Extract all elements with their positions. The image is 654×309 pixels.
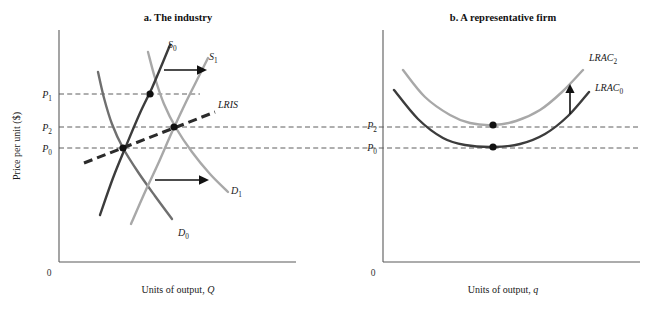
- firm-tick-p0-letter: P: [366, 142, 373, 153]
- industry-tick-p2-letter: P: [41, 122, 48, 133]
- firm-tick-p2: P2: [366, 120, 377, 134]
- panel-industry-y-axis-label: Price per unit ($): [11, 112, 23, 180]
- panel-firm: b. A representative firm 0 Units of outp…: [366, 12, 640, 295]
- curve-label-lrac0-sub: 0: [619, 87, 623, 96]
- curve-supply-0: [100, 45, 170, 215]
- firm-tick-p0: P0: [366, 142, 377, 156]
- curve-label-s0-sub: 0: [173, 44, 177, 53]
- industry-tick-p2-sub: 2: [48, 127, 52, 136]
- industry-tick-p0-letter: P: [41, 143, 48, 154]
- equilibrium-dot-e2: [170, 123, 177, 130]
- industry-origin-label: 0: [47, 268, 52, 278]
- curve-label-s0: S0: [168, 39, 177, 53]
- industry-x-axis-label-symbol: Q: [207, 284, 215, 295]
- firm-x-axis-label-text: Units of output,: [468, 284, 534, 295]
- figure-svg: a. The industry Price per unit ($) 0 Uni…: [0, 0, 654, 309]
- firm-tick-p2-sub: 2: [373, 125, 377, 134]
- panel-industry: a. The industry Price per unit ($) 0 Uni…: [11, 12, 640, 295]
- panel-industry-title: a. The industry: [144, 12, 213, 23]
- curve-label-s1: S1: [209, 51, 218, 65]
- panel-firm-title: b. A representative firm: [450, 12, 557, 23]
- curve-label-lrac2-sub: 2: [613, 57, 617, 66]
- curve-label-d1: D1: [230, 185, 242, 199]
- firm-origin-label: 0: [371, 268, 376, 278]
- curve-label-d0: D0: [177, 227, 189, 241]
- curve-lrac-0: [394, 90, 589, 147]
- curve-label-lrac0: LRAC0: [594, 82, 623, 96]
- industry-tick-p0-sub: 0: [48, 148, 52, 157]
- firm-tick-p2-letter: P: [366, 120, 373, 131]
- industry-tick-p1-sub: 1: [48, 94, 52, 103]
- industry-tick-p1: P1: [41, 89, 52, 103]
- industry-tick-p2: P2: [41, 122, 52, 136]
- curve-label-lris: LRIS: [217, 99, 238, 110]
- firm-x-axis-label-symbol: q: [533, 284, 538, 295]
- figure-container: a. The industry Price per unit ($) 0 Uni…: [0, 0, 654, 309]
- curve-lrac-2: [403, 70, 583, 125]
- curve-label-lrac2-letter: LRAC: [588, 52, 614, 63]
- industry-x-axis-label: Units of output, Q: [142, 284, 216, 295]
- curve-label-lrac2: LRAC2: [588, 52, 617, 66]
- curve-label-d0-sub: 0: [185, 232, 189, 241]
- curve-label-lrac0-letter: LRAC: [594, 82, 620, 93]
- firm-tick-p0-sub: 0: [373, 147, 377, 156]
- equilibrium-dot-e0: [119, 144, 126, 151]
- industry-tick-p0: P0: [41, 143, 52, 157]
- firm-min-dot-p2: [489, 121, 496, 128]
- firm-x-axis-label: Units of output, q: [468, 284, 539, 295]
- industry-tick-p1-letter: P: [41, 89, 48, 100]
- equilibrium-dot-e1: [146, 90, 153, 97]
- curve-label-s1-sub: 1: [214, 56, 218, 65]
- curve-demand-1: [148, 52, 228, 192]
- industry-x-axis-label-text: Units of output,: [142, 284, 208, 295]
- curve-label-d1-sub: 1: [238, 190, 242, 199]
- firm-min-dot-p0: [489, 143, 496, 150]
- demand-shift-arrow: [155, 175, 209, 185]
